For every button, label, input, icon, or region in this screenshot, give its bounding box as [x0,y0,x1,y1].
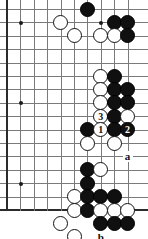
point-label-layer: ab [0,0,148,239]
point-label-a[interactable]: a [123,151,133,162]
go-board-diagram: 312 ab [0,0,148,239]
point-label-b[interactable]: b [96,232,106,239]
